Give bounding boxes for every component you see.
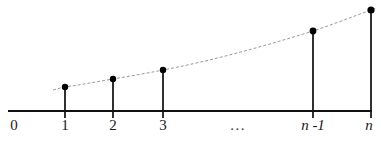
tick-label-n-minus-1: n -1 <box>301 118 325 133</box>
data-point-2 <box>110 76 116 82</box>
data-point-n <box>367 6 374 13</box>
data-point-1 <box>62 84 68 90</box>
tick-label-n: n <box>365 118 373 133</box>
interpolating-curve-group <box>53 8 377 90</box>
data-point-n-minus-1 <box>310 28 317 35</box>
data-point-3 <box>160 67 166 73</box>
stem-group <box>65 10 371 118</box>
tick-label-3: 3 <box>159 118 167 133</box>
stem-plot-figure: 0 1 2 3 ... n -1 n <box>0 0 381 142</box>
ellipsis-label: ... <box>230 118 246 133</box>
tick-label-2: 2 <box>109 118 117 133</box>
data-point-group <box>62 6 375 90</box>
tick-label-0: 0 <box>10 118 18 133</box>
tick-label-1: 1 <box>61 118 69 133</box>
interpolating-curve <box>53 8 377 90</box>
